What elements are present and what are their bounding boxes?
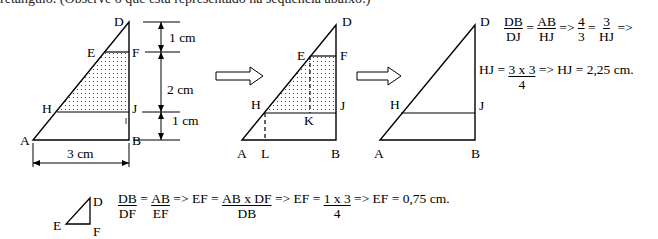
label-b: B xyxy=(331,146,340,161)
label-h: H xyxy=(251,97,261,112)
label-a: A xyxy=(20,133,30,148)
dim-label-bottom: 1 cm xyxy=(172,113,199,128)
dim-label-mid: 2 cm xyxy=(167,82,194,97)
figure-1-trapezoid: D E F H J A B 1 cm 2 cm 1 cm xyxy=(20,14,199,167)
fraction-1x3-4: 1 x 34 xyxy=(324,191,351,221)
dim-label-top: 1 cm xyxy=(169,30,196,45)
fraction-ab-ef: ABEF xyxy=(151,191,170,221)
label-h: H xyxy=(42,101,52,116)
label-a: A xyxy=(237,146,247,161)
fraction-db-dj: DBDJ xyxy=(504,14,523,44)
label-d: D xyxy=(114,14,124,29)
fraction-4-3: 43 xyxy=(578,14,585,44)
equation-ef-result: DBDF = ABEF => EF = AB x DFDB => EF = 1 … xyxy=(118,191,450,221)
label-k: K xyxy=(304,113,314,128)
hollow-arrow-right-icon xyxy=(216,67,263,85)
fraction-abxdf-db: AB x DFDB xyxy=(222,191,272,221)
equation-hj-result: HJ = 3 x 34 => HJ = 2,25 cm. xyxy=(479,62,634,92)
figure-2-decomposition: D E F H J K A L B xyxy=(237,14,352,161)
shaded-region-efjh xyxy=(265,56,336,113)
label-e: E xyxy=(53,218,61,233)
figure-3-similar-triangles: D H J A B xyxy=(374,14,490,161)
dim-arrow-left xyxy=(33,160,40,166)
hollow-arrow-right-icon xyxy=(357,67,401,85)
triangle-adb xyxy=(380,25,475,140)
label-j: J xyxy=(340,98,345,113)
label-d: D xyxy=(342,14,352,29)
dim-arrow-right xyxy=(122,160,129,166)
label-d: D xyxy=(93,194,103,209)
dim-label-base: 3 cm xyxy=(67,146,94,161)
label-j: J xyxy=(132,101,137,116)
shaded-region-efjh xyxy=(57,52,129,112)
fraction-ab-hj: ABHJ xyxy=(537,14,556,44)
label-e: E xyxy=(297,48,305,63)
label-a: A xyxy=(374,146,384,161)
fraction-db-df: DBDF xyxy=(118,191,137,221)
label-j: J xyxy=(479,98,484,113)
label-b: B xyxy=(471,146,480,161)
label-f: F xyxy=(93,224,101,239)
label-d: D xyxy=(480,14,490,29)
label-f: F xyxy=(340,48,348,63)
label-f: F xyxy=(132,45,140,60)
fraction-3x3-4: 3 x 34 xyxy=(508,62,535,92)
label-h: H xyxy=(390,97,400,112)
label-l: L xyxy=(261,146,269,161)
fraction-3-hj: 3HJ xyxy=(599,14,614,44)
label-e: E xyxy=(87,45,95,60)
equation-similarity-hj: DBDJ = ABHJ => 43 = 3HJ => xyxy=(504,14,633,44)
small-triangle-edf: D E F xyxy=(53,194,103,239)
